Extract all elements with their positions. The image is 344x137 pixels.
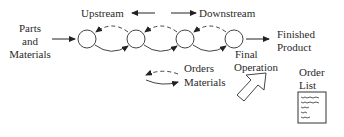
parts-label-2: and [10,35,50,48]
legend-materials-arc [146,80,178,84]
legend-materials-label: Materials [184,76,226,89]
parts-label-1: Parts [10,22,50,35]
node-final [225,30,243,48]
supply-chain-diagram [0,0,344,137]
order-arc-3 [194,26,226,32]
legend-orders-label: Orders [184,62,214,75]
parts-label-3: Materials [6,48,54,61]
material-arc-1 [95,45,128,51]
order-list-label-2: List [299,79,316,92]
order-list-icon [298,92,326,123]
finished-label-1: Finished [277,28,315,41]
legend-orders-arc [146,71,178,75]
final-label-1: Final [235,48,258,61]
order-list-label-1: Order [299,66,325,79]
finished-label-2: Product [277,41,311,54]
downstream-label: Downstream [199,7,255,20]
order-arc-2 [145,26,177,32]
node-2 [127,30,145,48]
order-arc-1 [96,26,128,32]
node-1 [78,30,96,48]
final-label-2: Operation [234,61,278,74]
upstream-label: Upstream [81,7,124,20]
hollow-arrow-icon [237,73,266,101]
material-arc-3 [193,45,226,51]
material-arc-2 [144,45,177,51]
node-3 [176,30,194,48]
